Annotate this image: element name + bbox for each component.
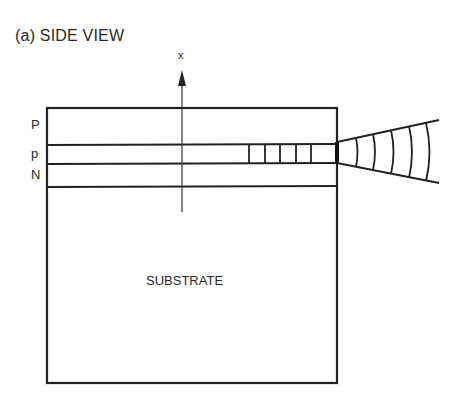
emission-cone (337, 120, 439, 183)
device-outline (47, 108, 337, 383)
layer-boundary-p-bottom (47, 163, 337, 164)
active-region-cells (249, 144, 311, 163)
layer-boundary-p-top (47, 144, 337, 145)
layer-boundary-n-bottom (47, 186, 337, 187)
laser-diode-side-view (0, 0, 467, 407)
arrow-up-icon (178, 70, 186, 86)
